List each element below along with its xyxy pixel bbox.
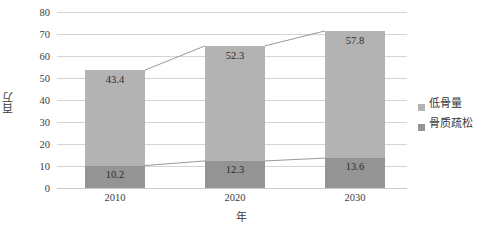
connector-total xyxy=(145,46,205,70)
legend-item[interactable]: 骨质疏松 xyxy=(418,115,483,135)
y-tick-label-50: 50 xyxy=(26,73,50,84)
x-tick-label-2010: 2010 xyxy=(75,192,155,203)
bar-value-label: 52.3 xyxy=(205,50,265,61)
bar-segment-low-bone-mass: 43.4 xyxy=(85,70,145,165)
y-axis-tick-labels: 01020304050607080 xyxy=(22,0,50,229)
y-tick-label-60: 60 xyxy=(26,51,50,62)
x-tick-label-2020: 2020 xyxy=(195,192,275,203)
connector-osteoporosis xyxy=(265,158,325,161)
y-axis-title: 百万 xyxy=(2,92,18,114)
y-tick-label-40: 40 xyxy=(26,95,50,106)
x-tick-label-2030: 2030 xyxy=(315,192,395,203)
y-tick-label-30: 30 xyxy=(26,117,50,128)
gridline-0 xyxy=(57,188,407,189)
y-tick-label-20: 20 xyxy=(26,139,50,150)
stacked-bar-chart: 百万 01020304050607080 43.410.252.312.357.… xyxy=(0,0,483,229)
y-tick-label-10: 10 xyxy=(26,161,50,172)
legend-swatch-icon xyxy=(418,124,425,131)
bar-group: 57.813.6 xyxy=(325,12,385,188)
legend-label: 骨质疏松 xyxy=(429,115,473,133)
bar-segment-osteoporosis: 13.6 xyxy=(325,158,385,188)
bar-value-label: 10.2 xyxy=(85,169,145,180)
legend-label: 低骨量 xyxy=(429,95,462,113)
bar-group: 43.410.2 xyxy=(85,12,145,188)
bar-segment-low-bone-mass: 52.3 xyxy=(205,46,265,161)
bar-group: 52.312.3 xyxy=(205,12,265,188)
chart-legend: 低骨量骨质疏松 xyxy=(418,95,483,135)
x-axis-title: 年 xyxy=(0,208,483,224)
bar-segment-low-bone-mass: 57.8 xyxy=(325,31,385,158)
y-tick-label-80: 80 xyxy=(26,7,50,18)
bar-segment-osteoporosis: 12.3 xyxy=(205,161,265,188)
bar-value-label: 43.4 xyxy=(85,74,145,85)
bar-value-label: 57.8 xyxy=(325,35,385,46)
bar-segment-osteoporosis: 10.2 xyxy=(85,166,145,188)
legend-swatch-icon xyxy=(418,104,425,111)
connector-osteoporosis xyxy=(145,161,205,166)
bar-value-label: 13.6 xyxy=(325,161,385,172)
legend-item[interactable]: 低骨量 xyxy=(418,95,483,115)
y-tick-label-70: 70 xyxy=(26,29,50,40)
y-tick-label-0: 0 xyxy=(26,183,50,194)
plot-area: 43.410.252.312.357.813.6 xyxy=(57,12,407,188)
bar-value-label: 12.3 xyxy=(205,164,265,175)
